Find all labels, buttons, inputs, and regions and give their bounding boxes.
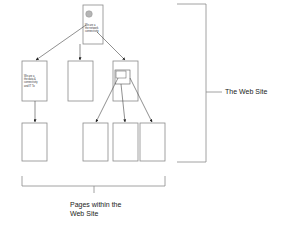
pages-bracket (22, 176, 165, 193)
sub-a-node (83, 123, 108, 161)
home-page-text: We are a the network connectivity (85, 24, 99, 34)
nested-frame-inner (116, 71, 126, 78)
website-bracket (177, 4, 222, 162)
sub-b-node (113, 123, 138, 161)
arrow-home-to-left (36, 25, 86, 60)
site-diagram (0, 0, 289, 234)
image-placeholder-icon (86, 11, 93, 18)
arrow-home-to-right (97, 32, 125, 60)
page-left-text: We are a the data & connectivity and IT … (24, 75, 38, 88)
sub-c-node (140, 123, 165, 161)
website-label: The Web Site (225, 87, 267, 96)
sub-left-node (22, 123, 47, 161)
page-middle-node (68, 61, 93, 101)
pages-label: Pages within the Web Site (70, 200, 121, 218)
